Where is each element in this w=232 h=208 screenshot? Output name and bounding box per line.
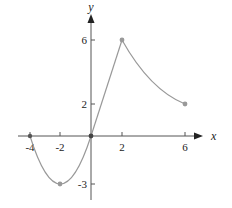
x-axis-label: x (210, 129, 217, 143)
y-tick-label: 6 (82, 34, 88, 46)
x-axis-arrow-icon (194, 133, 203, 140)
linear-segment (91, 40, 122, 136)
decay-segment (122, 40, 185, 104)
x-tick-label: 2 (119, 141, 125, 153)
y-tick-label: 2 (82, 98, 88, 110)
point-2-6 (120, 38, 125, 43)
x-tick-label: 6 (182, 141, 188, 153)
point-origin (89, 134, 94, 139)
point-neg2-neg3 (58, 182, 63, 187)
x-tick-label: -2 (55, 141, 64, 153)
point-6-2 (183, 102, 188, 107)
y-axis-label: y (87, 0, 94, 14)
point-neg4-0 (28, 134, 32, 138)
y-axis-arrow-icon (88, 14, 95, 23)
function-graph: -4 -2 2 6 6 2 -3 y x (0, 0, 232, 208)
y-tick-label: -3 (78, 178, 88, 190)
